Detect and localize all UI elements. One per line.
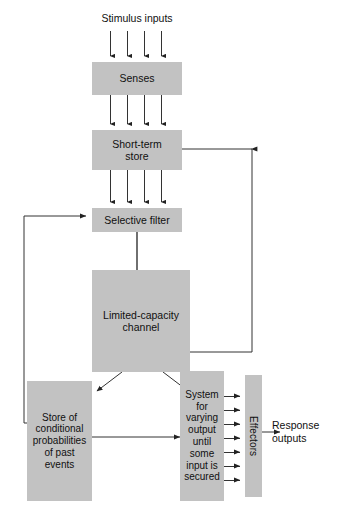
system-label-line4: output (188, 424, 216, 436)
store-label-line5: events (45, 459, 74, 471)
store-label-line1: Store of (42, 412, 77, 424)
limited-capacity-channel-box: Limited-capacity channel (92, 270, 190, 372)
system-to-effectors-arrows (224, 396, 240, 480)
channel-to-short-term-store-feedback-line (190, 149, 252, 352)
store-label-line2: conditional (36, 423, 84, 435)
short-term-store-to-filter-arrows (110, 170, 161, 202)
system-label-line6: some (190, 448, 214, 460)
effectors-label: Effectors (248, 416, 260, 456)
short-term-store-label-line1: Short-term (112, 138, 162, 150)
store-label-line3: probabilities (33, 435, 86, 447)
store-label-line4: of past (44, 447, 74, 459)
system-label-line1: System (185, 389, 218, 401)
store-of-conditional-probabilities-box: Store of conditional probabilities of pa… (27, 381, 92, 501)
system-label-line2: for (196, 401, 208, 413)
system-label-line7: input is (186, 460, 218, 472)
effectors-box: Effectors (245, 375, 262, 497)
stimulus-to-senses-arrows (110, 31, 161, 56)
senses-box: Senses (92, 62, 182, 95)
system-label-line5: until (193, 436, 211, 448)
selective-filter-label: Selective filter (104, 214, 169, 226)
channel-to-store-arrow (97, 372, 122, 391)
broadbent-filter-model-diagram: Stimulus inputs Senses Short-term store … (0, 0, 340, 524)
senses-to-short-term-store-arrows (110, 95, 161, 124)
system-label-line3: varying (186, 412, 218, 424)
stimulus-inputs-label: Stimulus inputs (82, 12, 192, 25)
limited-capacity-channel-label-line1: Limited-capacity (103, 309, 179, 321)
short-term-store-label-line2: store (112, 150, 162, 162)
response-outputs-label-line1: Response outputs (272, 419, 319, 444)
senses-box-label: Senses (119, 72, 154, 84)
selective-filter-box: Selective filter (92, 208, 182, 232)
response-outputs-label: Response outputs (272, 419, 338, 444)
system-label-line8: secured (184, 471, 220, 483)
limited-capacity-channel-label-line2: channel (123, 321, 160, 333)
system-for-varying-output-box: System for varying output until some inp… (180, 371, 224, 501)
short-term-store-box: Short-term store (92, 130, 182, 170)
